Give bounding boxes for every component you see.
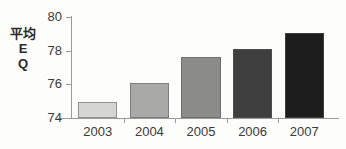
plot-area xyxy=(72,17,330,118)
x-tick-label-2005: 2005 xyxy=(187,124,216,139)
bar-2003 xyxy=(78,102,117,118)
x-tick-label-2007: 2007 xyxy=(290,124,319,139)
x-tick-mark xyxy=(175,118,176,123)
bar-2007 xyxy=(285,33,324,118)
x-tick-mark xyxy=(124,118,125,123)
y-axis-title-line-3: Q xyxy=(8,56,38,71)
x-tick-label-2006: 2006 xyxy=(238,124,267,139)
x-tick-label-2003: 2003 xyxy=(83,124,112,139)
bar-chart-figure: 平均 E Q 74767880 20032004200520062007 xyxy=(0,0,346,149)
x-tick-label-2004: 2004 xyxy=(135,124,164,139)
y-tick-label: 78 xyxy=(14,43,62,58)
bar-2004 xyxy=(130,83,169,118)
y-tick-label: 80 xyxy=(14,9,62,24)
x-tick-mark xyxy=(278,118,279,123)
y-axis-title-line-1: 平均 xyxy=(8,26,38,41)
bar-2005 xyxy=(181,57,220,118)
y-tick-mark xyxy=(66,118,72,119)
x-tick-mark xyxy=(227,118,228,123)
y-tick-label: 76 xyxy=(14,76,62,91)
bar-2006 xyxy=(233,49,272,118)
y-tick-label: 74 xyxy=(14,110,62,125)
x-axis-spine xyxy=(58,118,339,119)
